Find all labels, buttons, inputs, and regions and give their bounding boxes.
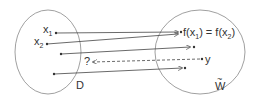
label-image: f(x1) = f(x2) bbox=[183, 27, 235, 40]
codomain-ellipse bbox=[155, 10, 245, 94]
label-y: y bbox=[205, 54, 211, 65]
label-D: D bbox=[76, 80, 84, 91]
arrow-3 bbox=[61, 47, 190, 54]
arrow-x2 bbox=[47, 34, 178, 44]
arrow-dashed-preimage bbox=[93, 59, 200, 62]
arrow-4 bbox=[54, 68, 182, 74]
label-preimage: ? bbox=[84, 56, 90, 67]
label-W: ~W bbox=[215, 81, 225, 92]
label-x2: x2 bbox=[34, 36, 43, 49]
label-x1: x1 bbox=[43, 24, 52, 37]
